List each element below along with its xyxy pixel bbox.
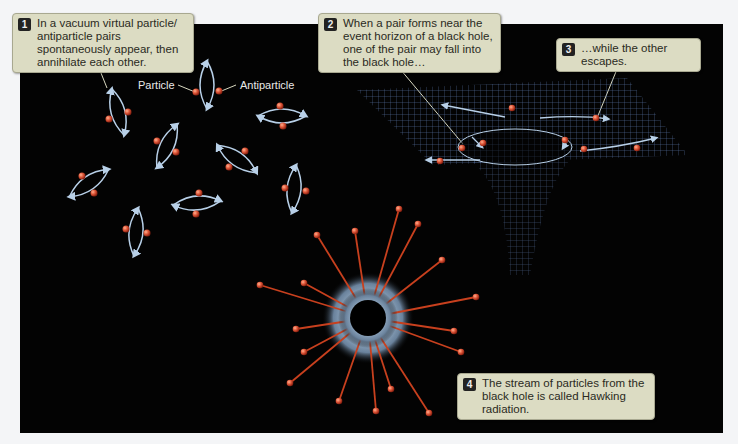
step-badge: 4 — [463, 378, 476, 391]
callout-4: 4 The stream of particles from the black… — [457, 373, 655, 420]
callout-3: 3 …while the other escapes. — [556, 38, 701, 72]
callout-text: …while the other escapes. — [581, 42, 667, 67]
callout-1: 1 In a vacuum virtual particle/ antipart… — [12, 13, 194, 73]
antiparticle-label: Antiparticle — [240, 79, 294, 91]
callout-text: The stream of particles from the black h… — [482, 377, 644, 415]
callout-text: When a pair forms near the event horizon… — [343, 17, 493, 68]
step-badge: 2 — [324, 18, 337, 31]
particle-label: Particle — [138, 79, 175, 91]
callout-text: In a vacuum virtual particle/ antipartic… — [37, 17, 178, 68]
callout-2: 2 When a pair forms near the event horiz… — [318, 13, 501, 73]
step-badge: 1 — [18, 18, 31, 31]
step-badge: 3 — [562, 43, 575, 56]
